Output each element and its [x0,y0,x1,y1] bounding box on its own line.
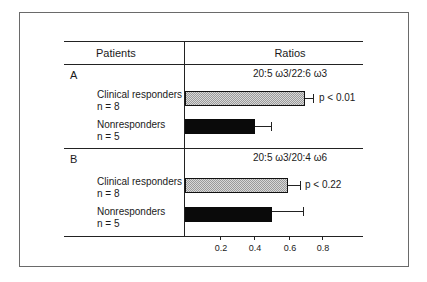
x-tick-label: 0.2 [215,243,228,253]
group-n: n = 5 [97,131,120,143]
figure-frame [19,12,409,267]
group-label: Nonresponders [97,206,165,218]
patients-header: Patients [96,47,136,59]
bar-b-clinical-responders [185,178,288,193]
error-bar [305,98,313,99]
section-b-label: B [70,153,77,165]
x-tick [220,236,221,240]
bar-b-nonresponders [185,207,272,222]
group-n: n = 8 [97,188,120,200]
error-cap [271,122,272,131]
section-a-label: A [70,69,77,81]
group-n: n = 8 [97,101,120,113]
table-top-rule [64,41,363,42]
error-cap [303,207,304,216]
ratios-header: Ratios [274,47,305,59]
bottom-axis-rule [64,236,363,237]
section-a-ratio-title: 20:5 ω3/22:6 ω3 [253,68,327,80]
header-rule [64,64,363,65]
x-tick-label: 0.8 [317,243,330,253]
x-tick-label: 0.6 [284,243,297,253]
bar-a-nonresponders [185,119,255,134]
group-label: Nonresponders [97,119,165,131]
p-value-label: p < 0.22 [305,179,341,191]
error-cap [313,94,314,103]
p-value-label: p < 0.01 [319,92,355,104]
section-divider-rule [64,148,363,149]
x-tick-label: 0.4 [249,243,262,253]
bar-a-clinical-responders [185,91,305,106]
error-bar [272,211,303,212]
x-tick [254,236,255,240]
section-b-ratio-title: 20:5 ω3/20:4 ω6 [253,152,327,164]
group-n: n = 5 [97,218,120,230]
group-label: Clinical responders [97,89,182,101]
error-bar [255,126,271,127]
error-bar [288,185,300,186]
error-cap [300,181,301,190]
x-tick [322,236,323,240]
x-tick [289,236,290,240]
group-label: Clinical responders [97,176,182,188]
